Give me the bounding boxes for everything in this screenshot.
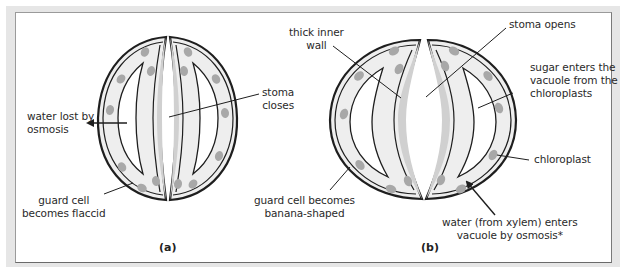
banana-shaped-leader — [330, 167, 350, 190]
label-water-lost: water lost by osmosis — [27, 110, 94, 136]
label-thick-inner-wall: thick inner wall — [289, 26, 344, 52]
label-sugar-enters: sugar enters the vacuole from the chloro… — [530, 61, 618, 100]
label-guard-cell-banana: guard cell becomes banana-shaped — [254, 194, 355, 220]
flaccid-leader — [104, 183, 133, 194]
label-stoma-opens: stoma opens — [509, 18, 576, 31]
guard-cell-left-b — [330, 40, 422, 199]
panel-caption-b: (b) — [421, 241, 439, 254]
guard-cell-right-b — [426, 40, 516, 199]
panel-caption-a: (a) — [159, 241, 176, 254]
label-water-enters: water (from xylem) enters vacuole by osm… — [442, 216, 578, 242]
water-enters-arrow — [467, 182, 495, 215]
label-stoma-closes: stoma closes — [262, 86, 294, 112]
panel-a-guard-cells — [98, 37, 237, 200]
label-guard-cell-flaccid: guard cell becomes flaccid — [22, 194, 106, 220]
guard-cell-left-a — [98, 37, 166, 200]
panel-b-guard-cells — [330, 40, 516, 199]
guard-cell-right-a — [170, 37, 237, 200]
label-chloroplast: chloroplast — [534, 153, 591, 166]
